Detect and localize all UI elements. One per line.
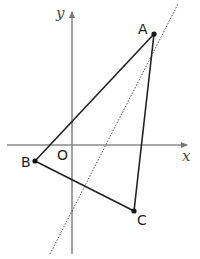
label-origin: O [57,147,68,163]
point-c [131,208,136,213]
label-x-axis: x [182,147,191,165]
label-c: C [137,212,147,228]
dotted-line [50,4,178,254]
label-y-axis: y [55,4,65,22]
point-b [32,158,37,163]
coordinate-diagram: A B C O x y [0,0,200,259]
label-b: B [21,154,31,170]
triangle-abc [35,34,154,211]
point-a [151,31,156,36]
label-a: A [138,21,148,37]
